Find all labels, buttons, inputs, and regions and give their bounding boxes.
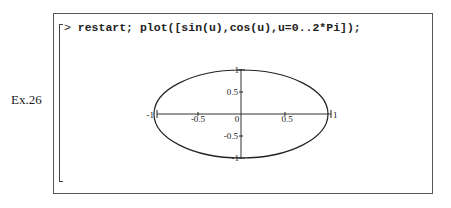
plot-output[interactable]: -1 -0.5 0 0.5 1 1 0.5 -0.5 -1 xyxy=(0,0,451,208)
x-tick-label: 0 xyxy=(235,114,240,124)
x-tick-label: 1 xyxy=(333,110,338,120)
x-tick-label: 0.5 xyxy=(281,114,293,124)
y-tick-label: 1 xyxy=(235,65,240,75)
y-tick-label: 0.5 xyxy=(227,87,239,97)
x-tick-label: -1 xyxy=(147,110,155,120)
y-tick-label: -1 xyxy=(232,153,240,163)
y-tick-label: -0.5 xyxy=(224,131,239,141)
x-tick-label: -0.5 xyxy=(191,114,206,124)
